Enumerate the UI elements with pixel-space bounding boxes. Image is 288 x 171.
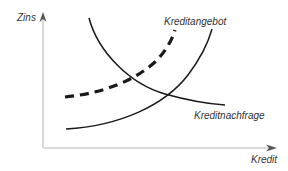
kreditangebot-curve xyxy=(66,29,212,129)
y-axis-label: Zins xyxy=(17,13,36,23)
kreditnachfrage-curve xyxy=(89,18,225,105)
x-axis-label: Kredit xyxy=(251,155,277,165)
kreditangebot-shifted-curve xyxy=(65,30,175,97)
kreditangebot-label: Kreditangebot xyxy=(164,17,226,27)
kreditnachfrage-label: Kreditnachfrage xyxy=(194,111,265,121)
credit-market-diagram xyxy=(0,0,288,171)
